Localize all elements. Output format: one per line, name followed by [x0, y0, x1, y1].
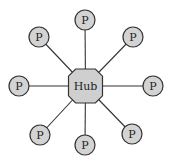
peer-label: P	[81, 139, 89, 152]
peer-node-top-left: P	[29, 27, 49, 47]
peer-label: P	[128, 128, 136, 141]
peer-node-right: P	[143, 76, 163, 96]
peer-node-left: P	[9, 76, 29, 96]
peer-node-top-right: P	[123, 27, 143, 47]
hub-node: Hub	[69, 69, 103, 103]
peer-label: P	[81, 14, 89, 27]
peer-label: P	[149, 80, 157, 93]
star-topology-diagram: Hub PPPPPPPP	[0, 0, 173, 163]
peer-label: P	[15, 80, 23, 93]
peer-node-bottom-left: P	[30, 125, 50, 145]
hub-label: Hub	[74, 80, 98, 93]
peer-node-top: P	[75, 10, 95, 30]
peer-node-bottom-right: P	[122, 124, 142, 144]
peer-label: P	[129, 31, 137, 44]
peer-label: P	[36, 129, 44, 142]
peer-label: P	[35, 31, 43, 44]
peer-node-bottom: P	[75, 135, 95, 155]
diagram-svg: Hub PPPPPPPP	[0, 0, 173, 163]
